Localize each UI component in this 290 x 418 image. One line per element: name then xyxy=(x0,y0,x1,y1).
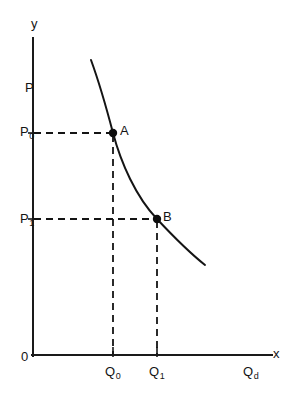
y-tick-label-p1: P1 xyxy=(20,212,34,225)
x-tick-label-q1-sub: 1 xyxy=(160,371,165,381)
plot-canvas xyxy=(0,0,290,418)
x-axis-label: x xyxy=(273,347,280,360)
origin-label: 0 xyxy=(21,350,28,363)
point-a-label: A xyxy=(120,124,129,137)
quantity-axis-label: Qd xyxy=(243,365,258,378)
demand-curve-figure: y P P0 P1 0 Q0 Q1 Qd x A B xyxy=(0,0,290,418)
x-tick-label-q1-text: Q xyxy=(149,364,159,379)
demand-curve xyxy=(91,60,205,265)
y-tick-label-p0: P0 xyxy=(20,125,34,138)
y-tick-label-p1-text: P xyxy=(20,211,29,226)
y-axis-label: y xyxy=(31,17,38,30)
y-tick-label-p0-text: P xyxy=(20,124,29,139)
y-tick-label-p0-sub: 0 xyxy=(29,131,34,141)
quantity-axis-label-text: Q xyxy=(243,364,253,379)
point-b-marker xyxy=(153,215,161,223)
x-tick-label-q0: Q0 xyxy=(105,365,120,378)
x-tick-label-q0-sub: 0 xyxy=(116,371,121,381)
x-tick-label-q0-text: Q xyxy=(105,364,115,379)
price-axis-label: P xyxy=(25,81,34,94)
quantity-axis-label-sub: d xyxy=(254,371,259,381)
x-tick-label-q1: Q1 xyxy=(149,365,164,378)
y-tick-label-p1-sub: 1 xyxy=(29,218,34,228)
point-a-marker xyxy=(109,129,117,137)
point-b-label: B xyxy=(163,210,172,223)
